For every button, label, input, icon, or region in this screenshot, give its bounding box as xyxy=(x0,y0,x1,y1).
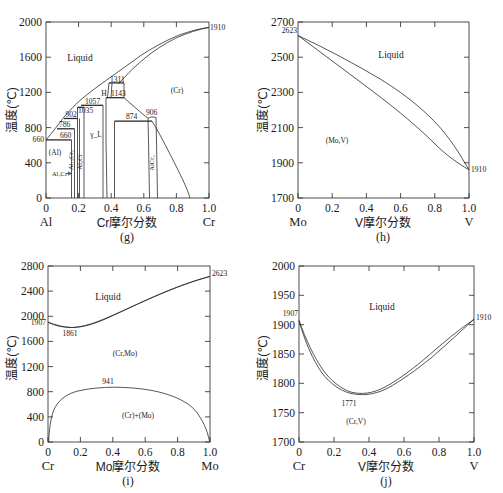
g-compound-al4cr: Al₄Cr xyxy=(76,153,83,169)
h-xtick-10: 1.0 xyxy=(462,202,477,214)
j-ytick-2000: 2000 xyxy=(272,260,295,272)
g-compound-alcr2: AlCr₂ xyxy=(148,155,155,171)
g-temp-786: 786 xyxy=(59,120,71,129)
h-yaxis-title: 温度(℃) xyxy=(255,87,270,132)
j-region-liquid: Liquid xyxy=(369,302,395,312)
i-yaxis-title: 温度(℃) xyxy=(4,335,19,380)
i-ytick-1200: 1200 xyxy=(21,361,44,373)
j-yaxis-title: 温度(℃) xyxy=(255,335,270,380)
j-ytick-1700: 1700 xyxy=(272,436,295,448)
j-ytick-1950: 1950 xyxy=(272,289,295,301)
h-ytick-2100: 2100 xyxy=(271,122,294,134)
g-region-gamma-l: γ_L xyxy=(89,130,102,139)
j-ytick-1800: 1800 xyxy=(272,377,295,389)
j-ytick-1850: 1850 xyxy=(272,348,295,360)
g-xtick-10: 1.0 xyxy=(202,202,217,214)
i-ytick-1600: 1600 xyxy=(21,335,44,347)
g-xtick-06: 0.6 xyxy=(137,202,152,214)
g-temp-902: 902 xyxy=(66,110,78,119)
h-xtick-0: 0 xyxy=(295,202,301,214)
g-temp-660-axis: 660 xyxy=(33,135,45,144)
g-region-al: (Al) xyxy=(49,148,62,157)
j-xaxis-title: V摩尔分数 xyxy=(358,459,414,474)
i-ytick-0: 0 xyxy=(38,436,44,448)
g-ytick-2000: 2000 xyxy=(19,16,42,28)
phase-diagram-figure-grid: 0 400 800 1200 1600 2000 0 0.2 0.4 0.6 0… xyxy=(0,0,503,493)
g-left-endmember: Al xyxy=(40,215,53,229)
j-xtick-04: 0.4 xyxy=(362,446,377,458)
phase-diagram-panel-g: 0 400 800 1200 1600 2000 0 0.2 0.4 0.6 0… xyxy=(0,0,251,246)
g-xtick-0: 0 xyxy=(43,202,49,214)
h-ytick-1700: 1700 xyxy=(271,192,294,204)
j-xtick-06: 0.6 xyxy=(397,446,412,458)
j-xtick-0: 0 xyxy=(296,446,302,458)
g-temp-1035: 1035 xyxy=(78,106,93,115)
h-region-liquid: Liquid xyxy=(378,50,404,60)
i-xtick-10: 1.0 xyxy=(203,446,218,458)
g-temp-660-inner: 660 xyxy=(60,131,72,140)
j-annotation-1771: 1771 xyxy=(341,399,356,408)
i-ytick-400: 400 xyxy=(27,411,45,423)
i-panel-letter: (i) xyxy=(122,474,133,488)
phase-diagram-panel-j: 1700 1750 1800 1850 1900 1950 2000 0 0.2… xyxy=(251,246,503,493)
i-xtick-02: 0.2 xyxy=(73,446,88,458)
h-left-endmember: Mo xyxy=(289,215,306,229)
g-compound-al13cr2: Al₁₃Cr₂ xyxy=(67,150,74,170)
h-ytick-1900: 1900 xyxy=(271,157,294,169)
h-ytick-2500: 2500 xyxy=(271,51,294,63)
i-xtick-06: 0.6 xyxy=(138,446,153,458)
i-annotation-1907: 1907 xyxy=(31,318,46,327)
i-xaxis-title: Mo摩尔分数 xyxy=(96,459,161,474)
g-xtick-02: 0.2 xyxy=(71,202,86,214)
g-temp-874: 874 xyxy=(126,112,138,121)
j-left-endmember: Cr xyxy=(293,459,306,473)
j-ytick-1900: 1900 xyxy=(272,319,295,331)
g-ytick-800: 800 xyxy=(25,122,43,134)
i-xtick-08: 0.8 xyxy=(170,446,185,458)
g-annotation-1910: 1910 xyxy=(210,23,225,32)
i-annotation-941: 941 xyxy=(102,377,114,386)
i-annotation-2623: 2623 xyxy=(212,269,227,278)
g-temp-1057: 1057 xyxy=(85,97,100,106)
i-ytick-800: 800 xyxy=(27,386,45,398)
g-ytick-1200: 1200 xyxy=(19,86,42,98)
h-annotation-1910: 1910 xyxy=(471,165,486,174)
g-xaxis-title: Cr摩尔分数 xyxy=(97,215,158,230)
h-right-endmember: V xyxy=(464,215,473,229)
i-ytick-2800: 2800 xyxy=(21,260,44,272)
g-temp-1311: 1311 xyxy=(110,75,125,84)
j-region-cr-v: (Cr,V) xyxy=(346,417,366,426)
i-region-cr-plus-mo: (Cr)+(Mo) xyxy=(122,411,155,420)
g-annotation-al7cr: Al₇Cr xyxy=(52,170,68,177)
g-ytick-0: 0 xyxy=(36,192,42,204)
g-region-liquid: Liquid xyxy=(67,53,93,63)
g-panel-letter: (g) xyxy=(120,230,134,244)
j-ytick-1750: 1750 xyxy=(272,407,295,419)
h-region-mo-v: (Mo,V) xyxy=(326,136,349,145)
g-xtick-04: 0.4 xyxy=(104,202,119,214)
i-xtick-04: 0.4 xyxy=(106,446,121,458)
i-ytick-2400: 2400 xyxy=(21,285,44,297)
phase-diagram-panel-h: 1700 1900 2100 2300 2500 2700 0 0.2 0.4 … xyxy=(251,0,503,246)
h-panel-letter: (h) xyxy=(376,230,390,244)
g-right-endmember: Cr xyxy=(203,215,216,229)
g-ytick-400: 400 xyxy=(25,157,43,169)
j-panel-letter: (j) xyxy=(380,474,391,488)
h-annotation-2623: 2623 xyxy=(282,26,297,35)
j-annotation-1910: 1910 xyxy=(476,313,491,322)
i-region-liquid: Liquid xyxy=(95,292,121,302)
g-temp-906: 906 xyxy=(146,108,158,117)
i-annotation-1861: 1861 xyxy=(62,329,77,338)
j-xtick-08: 0.8 xyxy=(432,446,447,458)
g-ytick-1600: 1600 xyxy=(19,51,42,63)
i-right-endmember: Mo xyxy=(201,459,218,473)
g-yaxis-title: 温度(℃) xyxy=(4,87,19,132)
h-xaxis-title: V摩尔分数 xyxy=(355,215,411,230)
i-xtick-0: 0 xyxy=(45,446,51,458)
i-region-cr-mo: (Cr,Mo) xyxy=(113,349,138,358)
g-region-cr: (Cr) xyxy=(171,86,184,95)
h-xtick-08: 0.8 xyxy=(428,202,443,214)
h-ytick-2300: 2300 xyxy=(271,86,294,98)
g-annotation-h: H xyxy=(101,89,107,98)
j-annotation-1907: 1907 xyxy=(283,309,298,318)
